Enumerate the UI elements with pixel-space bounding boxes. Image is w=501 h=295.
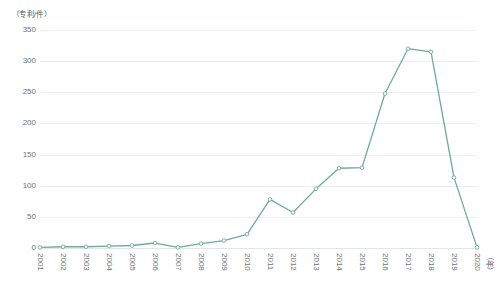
data-point-2009 [222, 239, 226, 243]
data-point-2014 [337, 166, 341, 170]
data-point-2016 [383, 92, 387, 96]
data-point-2008 [199, 242, 203, 246]
data-point-2002 [61, 245, 65, 249]
series-polyline [40, 49, 477, 248]
line-chart: （专利/件） 050100150200250300350 20012002200… [0, 0, 501, 295]
data-point-2018 [429, 50, 433, 54]
data-point-2015 [360, 166, 364, 170]
data-point-2001 [38, 246, 42, 250]
data-point-2003 [84, 245, 88, 249]
data-point-2013 [314, 187, 318, 191]
data-point-2004 [107, 244, 111, 248]
data-point-2006 [153, 241, 157, 245]
data-point-2012 [291, 211, 295, 215]
data-point-2017 [406, 47, 410, 51]
data-point-2010 [245, 233, 249, 237]
series-line-patents [0, 0, 501, 295]
data-point-2020 [475, 246, 479, 250]
data-point-2011 [268, 198, 272, 202]
data-point-2007 [176, 246, 180, 250]
data-point-2019 [452, 176, 456, 180]
data-point-2005 [130, 244, 134, 248]
